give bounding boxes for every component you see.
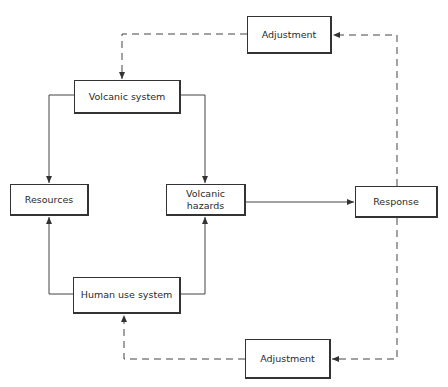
node-label: Volcanic system [89,91,166,103]
node-label: Resources [25,194,74,206]
edge-adjustment-bottom-to-human-use [124,315,245,359]
edge-human-use-to-hazards [180,217,205,294]
node-label: Volcanic hazards [179,188,232,212]
edge-response-to-adjustment-top [333,35,397,186]
node-label: Response [373,196,419,208]
adjustment-top-node: Adjustment [247,16,332,54]
edge-volcanic-system-to-resources [49,95,74,183]
human-use-system-node: Human use system [73,277,181,314]
node-label: Human use system [81,289,172,301]
resources-node: Resources [10,184,89,216]
node-label: Adjustment [260,353,315,365]
edge-volcanic-system-to-hazards [180,95,205,183]
adjustment-bottom-node: Adjustment [245,339,331,379]
volcanic-hazards-node: Volcanic hazards [166,184,246,216]
edge-human-use-to-resources [49,217,73,294]
response-node: Response [355,186,438,218]
node-label: Adjustment [262,29,317,41]
edge-response-to-adjustment-bottom [332,218,397,359]
volcanic-system-node: Volcanic system [74,80,181,114]
edge-adjustment-top-to-volcanic-system [122,34,247,79]
